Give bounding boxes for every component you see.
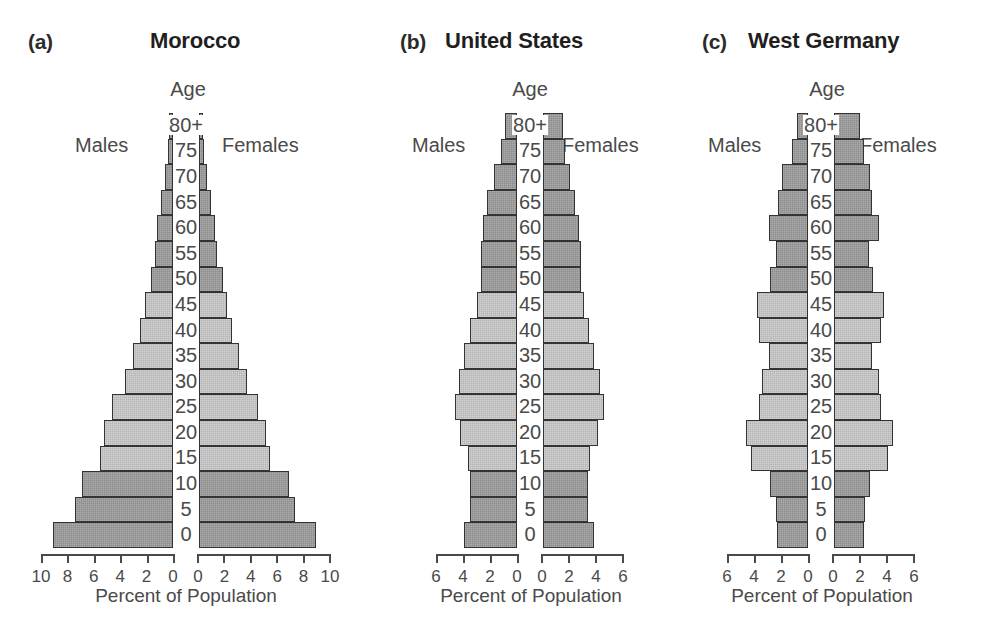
age-tick-label: 15 <box>518 447 542 467</box>
panel-letter-b: (b) <box>400 30 426 54</box>
bar-male <box>501 139 517 165</box>
age-tick-label: 25 <box>809 396 833 416</box>
bar-male <box>769 343 808 369</box>
bar-female <box>543 394 604 420</box>
x-axis-tick-label: 4 <box>115 567 124 587</box>
x-axis-tick-label: 2 <box>855 567 864 587</box>
age-tick-label: 65 <box>809 192 833 212</box>
bar-male <box>140 318 173 344</box>
bar-female <box>199 369 247 395</box>
bar-female <box>199 522 316 548</box>
x-axis-tick <box>197 554 199 563</box>
bar-female <box>543 139 565 165</box>
bar-female <box>199 446 270 472</box>
x-axis-tick-label: 0 <box>512 567 521 587</box>
x-axis-title-west-germany: Percent of Population <box>702 585 942 607</box>
x-axis-tick <box>490 554 492 563</box>
x-axis-line-right <box>199 554 331 556</box>
age-tick-label: 30 <box>174 371 198 391</box>
bar-female <box>199 164 207 190</box>
bar-male <box>481 241 517 267</box>
bar-female <box>834 343 872 369</box>
x-axis-tick-label: 2 <box>485 567 494 587</box>
age-tick-label: 10 <box>174 473 198 493</box>
age-tick-label: 50 <box>809 268 833 288</box>
age-tick-label: 15 <box>809 447 833 467</box>
pyramid-plot-west-germany: 05101520253035404550556065707580+0022446… <box>727 113 915 548</box>
bar-female <box>543 471 588 497</box>
bar-female <box>199 318 232 344</box>
bar-male <box>746 420 808 446</box>
x-axis-tick-label: 0 <box>193 567 202 587</box>
age-tick-label: 20 <box>174 422 198 442</box>
panel-west-germany: (c) West Germany Age Males Females 05101… <box>690 0 1001 626</box>
x-axis-tick-label: 6 <box>618 567 627 587</box>
x-axis-line-left <box>727 554 808 556</box>
bar-female <box>834 241 869 267</box>
bar-female <box>834 420 893 446</box>
bar-male <box>759 394 808 420</box>
bar-male <box>770 471 808 497</box>
age-tick-label: 50 <box>174 268 198 288</box>
x-axis-tick <box>276 554 278 563</box>
x-axis-line-right <box>834 554 915 556</box>
panel-title-morocco: Morocco <box>150 28 240 54</box>
x-axis-tick <box>517 554 519 563</box>
x-axis-tick-label: 8 <box>299 567 308 587</box>
age-tick-label: 35 <box>518 345 542 365</box>
bar-female <box>834 292 884 318</box>
bar-male <box>776 241 808 267</box>
x-axis-tick <box>622 554 624 563</box>
age-axis-label-west-germany: Age <box>797 78 857 101</box>
age-tick-label: 55 <box>518 243 542 263</box>
x-axis-tick <box>754 554 756 563</box>
bar-female <box>543 190 575 216</box>
bar-male <box>151 267 173 293</box>
x-axis-tick <box>250 554 252 563</box>
age-tick-label: 40 <box>809 320 833 340</box>
bar-male <box>751 446 808 472</box>
age-tick-label: 35 <box>174 345 198 365</box>
age-tick-label: 25 <box>174 396 198 416</box>
x-axis-tick <box>67 554 69 563</box>
age-tick-label: 30 <box>518 371 542 391</box>
age-axis-label-united-states: Age <box>500 78 560 101</box>
age-tick-label: 60 <box>809 217 833 237</box>
bar-male <box>777 522 808 548</box>
x-axis-tick-label: 4 <box>458 567 467 587</box>
bar-male <box>464 343 517 369</box>
age-tick-label: 10 <box>518 473 542 493</box>
x-axis-tick <box>727 554 729 563</box>
x-axis-tick <box>859 554 861 563</box>
bar-female <box>543 343 594 369</box>
bar-female <box>199 420 266 446</box>
pyramid-plot-united-states: 05101520253035404550556065707580+0022446… <box>436 113 624 548</box>
bar-female <box>199 241 217 267</box>
x-axis-tick-label: 4 <box>749 567 758 587</box>
bar-male <box>494 164 517 190</box>
x-axis-title-united-states: Percent of Population <box>411 585 651 607</box>
bar-female <box>543 446 590 472</box>
bar-male <box>776 497 808 523</box>
bar-female <box>199 343 239 369</box>
x-axis-tick-label: 2 <box>776 567 785 587</box>
age-tick-label: 0 <box>179 524 192 544</box>
x-axis-tick-label: 6 <box>89 567 98 587</box>
bar-male <box>75 497 173 523</box>
x-axis-tick-label: 10 <box>321 567 340 587</box>
bar-male <box>460 420 517 446</box>
age-tick-label: 35 <box>809 345 833 365</box>
age-tick-label: 60 <box>174 217 198 237</box>
bar-male <box>770 267 808 293</box>
bar-male <box>782 164 808 190</box>
x-axis-tick-label: 6 <box>272 567 281 587</box>
age-tick-label: 0 <box>523 524 536 544</box>
bar-female <box>543 215 579 241</box>
bar-male <box>477 292 518 318</box>
bar-female <box>543 241 581 267</box>
age-tick-label: 75 <box>174 140 198 160</box>
bar-female <box>199 190 211 216</box>
x-axis-tick <box>173 554 175 563</box>
age-tick-label: 75 <box>809 140 833 160</box>
bar-female <box>834 164 870 190</box>
